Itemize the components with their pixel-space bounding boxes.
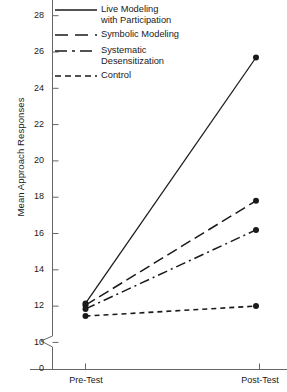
legend-item-live-modeling-with-participation: Live Modeling with Participation	[101, 4, 171, 27]
y-tick-label-20: 20	[22, 155, 44, 165]
x-tick-label-pre-test: Pre-Test	[56, 375, 116, 385]
legend-key-long-dash-icon	[55, 30, 97, 40]
series-control	[83, 303, 260, 319]
legend-key-short-dash-icon	[55, 71, 97, 81]
legend-label-control: Control	[101, 70, 131, 81]
y-tick-label-28: 28	[22, 10, 44, 20]
series-symbolic-modeling	[83, 198, 260, 308]
legend-item-systematic-desensitization: Systematic Desensitization	[101, 45, 164, 68]
legend-label-systematic-line1: Systematic	[101, 45, 164, 56]
y-tick-label-26: 26	[22, 46, 44, 56]
chart-figure: Mean Approach Responses 28 26 24 22 20 1…	[0, 0, 287, 392]
legend-item-control: Control	[101, 70, 131, 81]
y-axis-zero-label: 0	[22, 363, 44, 373]
y-tick-label-10: 10	[22, 337, 44, 347]
y-tick-label-18: 18	[22, 191, 44, 201]
legend-label-live-modeling-line2: with Participation	[101, 15, 171, 26]
y-tick-label-22: 22	[22, 119, 44, 129]
legend-key-dash-dot-icon	[55, 46, 97, 56]
y-tick-marks	[53, 16, 59, 343]
y-tick-label-16: 16	[22, 228, 44, 238]
x-tick-label-post-test: Post-Test	[228, 375, 287, 385]
y-tick-label-12: 12	[22, 300, 44, 310]
legend-label-symbolic-modeling: Symbolic Modeling	[101, 29, 179, 40]
legend-label-systematic-line2: Desensitization	[101, 56, 164, 67]
legend-label-live-modeling-line1: Live Modeling	[101, 4, 171, 15]
x-tick-marks	[86, 364, 260, 370]
legend-key-solid-icon	[55, 5, 97, 15]
legend-item-symbolic-modeling: Symbolic Modeling	[101, 29, 179, 40]
y-tick-label-14: 14	[22, 264, 44, 274]
y-tick-label-24: 24	[22, 83, 44, 93]
